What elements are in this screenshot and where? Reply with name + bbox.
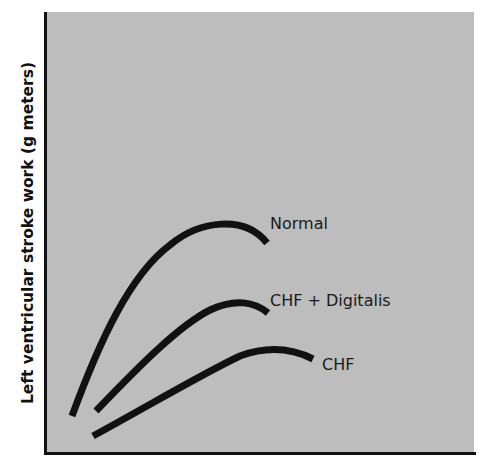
chart-figure: Left ventricular stroke work (g meters) … (0, 0, 485, 468)
curves (0, 0, 485, 468)
curve-chf (93, 350, 313, 436)
curve-normal (72, 224, 267, 416)
label-normal: Normal (270, 214, 328, 233)
label-chf: CHF (322, 355, 354, 374)
label-chf-digitalis: CHF + Digitalis (270, 291, 391, 310)
